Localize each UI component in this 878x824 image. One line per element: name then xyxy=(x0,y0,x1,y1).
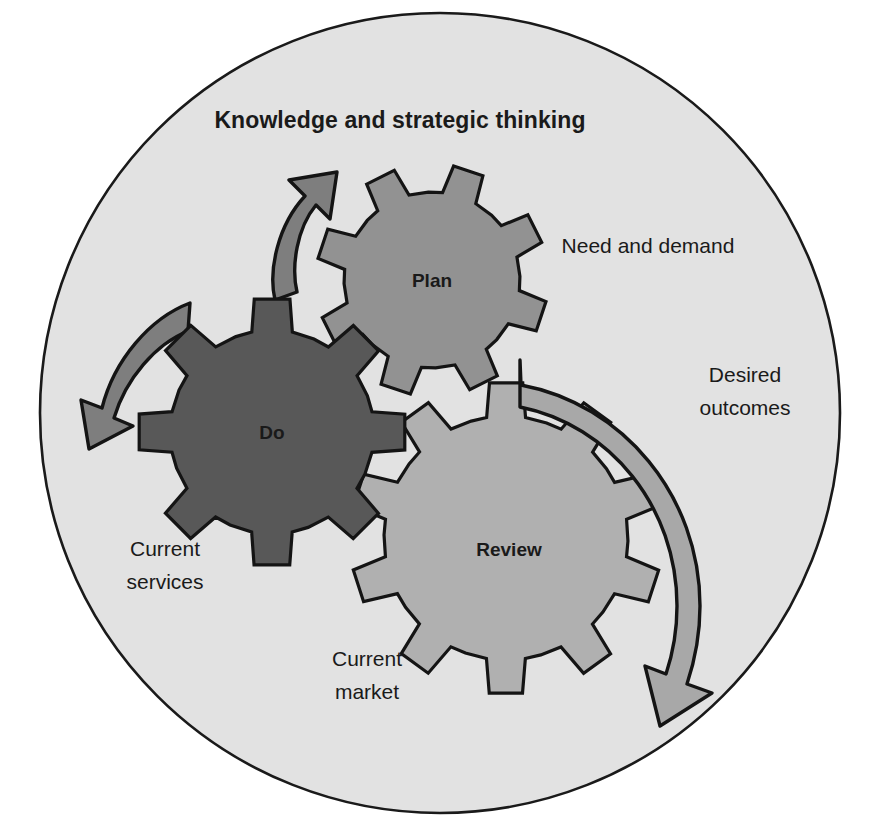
annotation-line: Need and demand xyxy=(562,234,735,257)
annotation-line: services xyxy=(126,570,203,593)
gear-do-label: Do xyxy=(259,422,284,443)
annotation-line: outcomes xyxy=(699,396,790,419)
annotation-line: Current xyxy=(130,537,200,560)
annotation-line: Desired xyxy=(709,363,781,386)
gear-review-label: Review xyxy=(476,539,542,560)
diagram-title: Knowledge and strategic thinking xyxy=(214,107,585,133)
gear-plan-label: Plan xyxy=(412,270,452,291)
diagram-canvas: Plan Review Do Knowledge and strategic t… xyxy=(0,0,878,824)
annotation-need-and-demand: Need and demand xyxy=(562,234,735,257)
cycle-gears-diagram: Plan Review Do Knowledge and strategic t… xyxy=(0,0,878,824)
annotation-line: market xyxy=(335,680,399,703)
gear-do: Do xyxy=(139,299,405,565)
annotation-line: Current xyxy=(332,647,402,670)
